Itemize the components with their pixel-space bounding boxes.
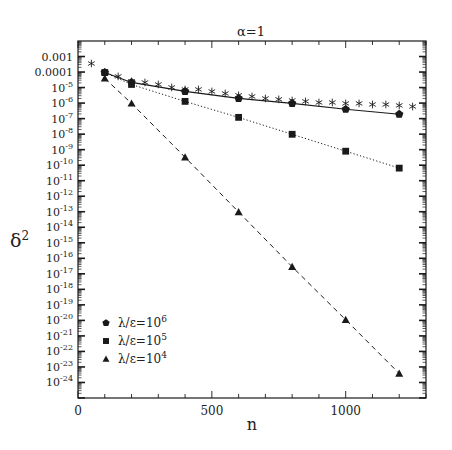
triangle-marker [103,356,110,362]
chart-title: α=1 [237,24,265,39]
x-tick-label: 500 [200,404,223,418]
y-tick-label: 10-15 [46,235,73,250]
pentagon-marker [395,110,403,118]
y-tick-label: 10-7 [51,111,73,126]
legend-label: λ/ε=106 [118,314,167,330]
y-tick-label: 10-5 [51,80,73,95]
legend-label: λ/ε=105 [118,332,167,348]
y-tick-label: 10-20 [46,312,73,327]
pentagon-marker [342,105,350,113]
pentagon-marker [102,319,109,326]
triangle-marker [395,369,403,376]
y-tick-label: 10-10 [46,157,73,172]
pentagon-marker [234,94,242,102]
y-tick-label: 10-13 [46,204,73,219]
y-tick-label: 0.001 [42,51,74,64]
square-marker [103,338,109,344]
y-tick-label: 10-22 [46,343,73,358]
legend: λ/ε=106λ/ε=105λ/ε=104 [102,314,167,366]
y-tick-label: 10-11 [46,173,73,188]
y-tick-label: 10-23 [46,359,73,374]
y-tick-label: 10-12 [46,188,73,203]
square-marker [396,165,403,172]
y-tick-label: 10-21 [46,328,73,343]
square-marker [289,131,296,138]
series-line [105,73,399,169]
square-marker [342,148,349,155]
square-marker [182,98,189,105]
x-tick-label: 0 [74,404,82,418]
y-axis-title-delta: δ [10,229,21,251]
y-tick-label: 10-16 [46,250,73,265]
y-axis: 0.0010.000110-510-610-710-810-910-1010-1… [35,42,427,398]
y-tick-label: 0.0001 [35,66,74,79]
y-tick-label: 10-6 [51,95,73,110]
x-axis-title: n [247,415,257,434]
triangle-marker [128,99,136,106]
series-asterisk [88,60,416,111]
y-tick-label: 10-18 [46,281,73,296]
triangle-marker [235,208,243,215]
y-tick-label: 10-9 [51,142,73,157]
legend-label: λ/ε=104 [118,350,167,366]
x-tick-label: 1000 [330,404,361,418]
square-marker [235,114,242,121]
y-tick-label: 10-14 [46,219,73,234]
y-tick-label: 10-19 [46,297,73,312]
y-tick-label: 10-24 [46,374,73,389]
y-tick-label: 10-17 [46,266,73,281]
chart: α=1 0.0010.000110-510-610-710-810-910-10… [0,0,452,450]
series-triangle [101,74,403,376]
y-tick-label: 10-8 [51,126,73,141]
pentagon-marker [288,99,296,107]
y-axis-title-exp: 2 [21,229,29,243]
y-axis-title: δ2 [10,229,29,251]
